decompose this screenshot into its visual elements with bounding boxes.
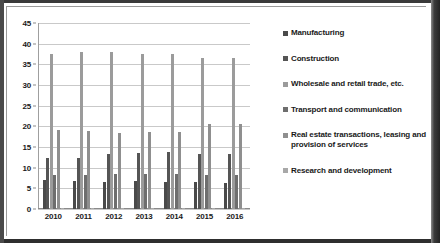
bar-2013-series-1	[137, 153, 140, 209]
x-tick-label-2012: 2012	[105, 212, 122, 221]
bar-2010-series-4	[57, 130, 60, 209]
y-tick-mark-40	[33, 43, 36, 44]
bar-2010-series-3	[53, 175, 56, 209]
y-tick-label-10: 10	[23, 163, 32, 172]
bar-2011-series-1	[77, 158, 80, 209]
bar-2015-series-4	[208, 124, 211, 209]
legend-label: Manufacturing	[291, 28, 344, 38]
legend-swatch-icon	[283, 168, 288, 173]
bar-2011-series-0	[73, 181, 76, 209]
bar-2010-series-2	[50, 54, 53, 209]
legend-label: Research and development	[291, 166, 391, 176]
legend-swatch-icon	[283, 133, 288, 138]
y-tick-label-15: 15	[23, 143, 32, 152]
bar-2015-series-1	[198, 154, 201, 209]
x-tick-label-2015: 2015	[196, 212, 213, 221]
bar-2012-series-1	[107, 154, 110, 209]
bar-group-2010	[43, 23, 64, 209]
bar-2016-series-4	[239, 124, 242, 209]
y-tick-mark-0	[33, 209, 36, 210]
bar-2016-series-0	[224, 183, 227, 209]
y-tick-mark-20	[33, 126, 36, 127]
legend-item-2[interactable]: Wholesale and retail trade, etc.	[283, 79, 429, 89]
frame-border-top	[0, 0, 440, 3]
bar-group-2013	[134, 23, 155, 209]
bar-2012-series-5	[121, 208, 124, 209]
bar-2010-series-5	[61, 208, 64, 209]
legend-swatch-icon	[283, 31, 288, 36]
bar-2011-series-4	[87, 131, 90, 209]
bar-2013-series-4	[148, 132, 151, 209]
bar-2013-series-3	[144, 174, 147, 209]
y-tick-label-5: 5	[27, 184, 31, 193]
y-tick-mark-10	[33, 167, 36, 168]
legend-swatch-icon	[283, 56, 288, 61]
bar-group-2011	[73, 23, 94, 209]
bar-group-2014	[164, 23, 185, 209]
bar-2011-series-3	[84, 175, 87, 209]
bar-2011-series-5	[91, 208, 94, 209]
x-axis: 2010201120122013201420152016	[38, 212, 250, 228]
legend-item-4[interactable]: Real estate transactions, leasing and pr…	[283, 130, 429, 150]
frame-border-bottom	[0, 239, 440, 243]
bar-2012-series-4	[118, 133, 121, 209]
bar-2016-series-5	[242, 208, 245, 209]
x-tick-label-2013: 2013	[136, 212, 153, 221]
legend-swatch-icon	[283, 82, 288, 87]
bar-2013-series-2	[141, 54, 144, 209]
plot-area	[38, 23, 250, 209]
y-tick-label-0: 0	[27, 205, 31, 214]
legend-label: Transport and communication	[291, 105, 402, 115]
bar-2016-series-2	[232, 58, 235, 209]
y-tick-mark-35	[33, 64, 36, 65]
y-tick-label-40: 40	[23, 39, 32, 48]
y-tick-label-25: 25	[23, 101, 32, 110]
bar-2015-series-3	[205, 175, 208, 209]
bar-2012-series-0	[103, 182, 106, 209]
bar-2016-series-1	[228, 154, 231, 209]
legend-item-0[interactable]: Manufacturing	[283, 28, 429, 38]
x-tick-label-2016: 2016	[226, 212, 243, 221]
legend-item-5[interactable]: Research and development	[283, 166, 429, 176]
bar-2015-series-0	[194, 182, 197, 209]
y-tick-mark-45	[33, 23, 36, 24]
bar-2015-series-2	[201, 58, 204, 209]
bar-2014-series-3	[175, 174, 178, 209]
y-axis: 051015202530354045	[0, 23, 36, 209]
x-tick-label-2011: 2011	[75, 212, 92, 221]
y-tick-mark-30	[33, 85, 36, 86]
y-tick-label-35: 35	[23, 60, 32, 69]
bar-2014-series-1	[167, 152, 170, 209]
y-tick-mark-25	[33, 105, 36, 106]
y-tick-label-30: 30	[23, 81, 32, 90]
bar-2014-series-5	[182, 208, 185, 209]
legend-label: Construction	[291, 54, 339, 64]
bar-2011-series-2	[80, 52, 83, 209]
figure-frame: 051015202530354045 201020112012201320142…	[0, 0, 440, 243]
bar-2013-series-5	[151, 208, 154, 209]
bar-2010-series-0	[43, 180, 46, 209]
bar-group-2016	[224, 23, 245, 209]
bar-2014-series-4	[178, 132, 181, 209]
frame-border-right	[431, 0, 440, 243]
bar-2015-series-5	[212, 208, 215, 209]
bar-group-2012	[103, 23, 124, 209]
legend-swatch-icon	[283, 107, 288, 112]
bar-group-2015	[194, 23, 215, 209]
bar-2014-series-2	[171, 54, 174, 209]
bar-2016-series-3	[235, 175, 238, 209]
chart-legend: ManufacturingConstructionWholesale and r…	[283, 28, 429, 191]
y-tick-label-45: 45	[23, 19, 32, 28]
bar-2012-series-3	[114, 174, 117, 209]
legend-item-1[interactable]: Construction	[283, 54, 429, 64]
legend-label: Wholesale and retail trade, etc.	[291, 79, 404, 89]
bar-2013-series-0	[134, 181, 137, 209]
x-tick-label-2010: 2010	[45, 212, 62, 221]
bars-layer	[38, 23, 250, 209]
legend-item-3[interactable]: Transport and communication	[283, 105, 429, 115]
bar-2010-series-1	[46, 158, 49, 209]
y-tick-label-20: 20	[23, 122, 32, 131]
bar-2012-series-2	[110, 52, 113, 209]
x-tick-label-2014: 2014	[166, 212, 183, 221]
gridline-0	[38, 209, 250, 210]
